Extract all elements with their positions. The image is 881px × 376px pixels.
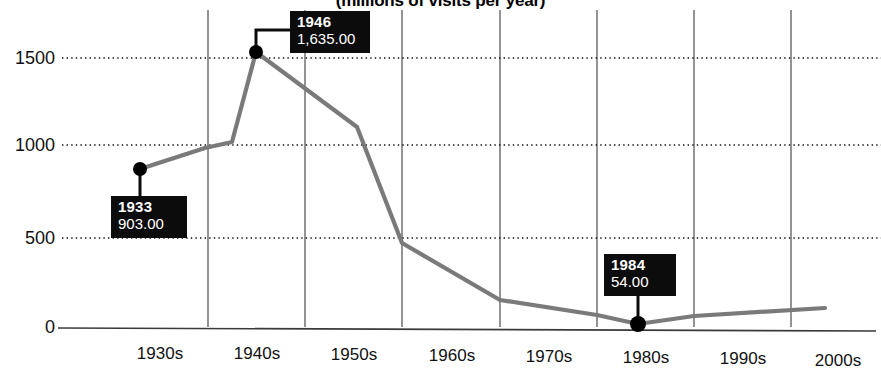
callout-leader-lines xyxy=(140,30,638,324)
x-tick-1950s: 1950s xyxy=(331,345,377,365)
x-tick-1960s: 1960s xyxy=(429,346,475,366)
x-tick-2000s: 2000s xyxy=(815,351,861,371)
x-tick-1930s: 1930s xyxy=(137,344,183,364)
marker-1984 xyxy=(630,316,646,332)
y-tick-label: 1500 xyxy=(15,48,55,69)
chart-plot-area xyxy=(0,0,881,376)
x-tick-1980s: 1980s xyxy=(623,348,669,368)
marker-1933 xyxy=(133,162,147,176)
callout-value: 54.00 xyxy=(611,274,669,291)
callout-value: 1,635.00 xyxy=(297,31,363,48)
x-tick-1940s: 1940s xyxy=(234,344,280,364)
x-axis-line xyxy=(58,328,876,331)
callout-1933: 1933 903.00 xyxy=(111,196,187,238)
callout-year: 1946 xyxy=(297,14,363,31)
callout-1946: 1946 1,635.00 xyxy=(290,11,370,53)
x-tick-1990s: 1990s xyxy=(720,349,766,369)
y-tick-label: 0 xyxy=(45,317,55,338)
callout-value: 903.00 xyxy=(118,216,180,233)
y-tick-label: 500 xyxy=(25,228,55,249)
callout-year: 1984 xyxy=(611,257,669,274)
y-tick-label: 1000 xyxy=(15,135,55,156)
data-line xyxy=(140,52,825,324)
callout-1984: 1984 54.00 xyxy=(604,254,676,296)
marker-1946 xyxy=(249,45,263,59)
chart-root: (millions of visits per year) xyxy=(0,0,881,376)
callout-year: 1933 xyxy=(118,199,180,216)
x-tick-1970s: 1970s xyxy=(526,347,572,367)
data-point-markers xyxy=(133,45,646,332)
